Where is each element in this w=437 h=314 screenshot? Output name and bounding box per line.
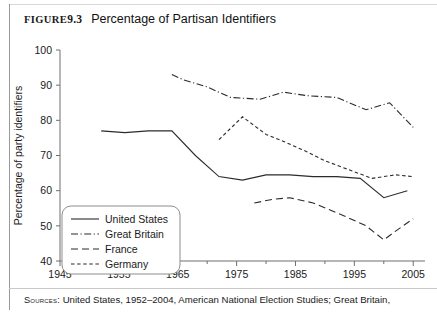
- figure-label: Figure: [24, 14, 67, 25]
- y-tick-label: 70: [40, 149, 52, 161]
- line-chart: 4050607080901001945195519651975198519952…: [0, 30, 437, 280]
- legend-label-france: France: [105, 243, 138, 255]
- top-divider: [9, 4, 437, 5]
- y-tick-label: 50: [40, 220, 52, 232]
- chart-area: 4050607080901001945195519651975198519952…: [0, 30, 437, 280]
- legend-label-great-britain: Great Britain: [105, 228, 164, 240]
- source-body: United States, 1952–2004, American Natio…: [63, 294, 390, 305]
- y-tick-label: 80: [40, 114, 52, 126]
- y-tick-label: 40: [40, 255, 52, 267]
- page-title: Figure9.3 Percentage of Partisan Identif…: [24, 9, 276, 27]
- legend-label-germany: Germany: [105, 258, 149, 270]
- series-line-great-britain: [172, 75, 413, 128]
- series-line-germany: [219, 117, 413, 179]
- legend-label-united-states: United States: [105, 213, 168, 225]
- x-tick-label: 1985: [284, 268, 308, 280]
- y-tick-label: 100: [34, 44, 52, 56]
- figure-number: 9.3: [67, 13, 82, 25]
- y-tick-label: 60: [40, 184, 52, 196]
- series-line-united-states: [101, 131, 407, 198]
- y-tick-label: 90: [40, 79, 52, 91]
- figure-page: Figure9.3 Percentage of Partisan Identif…: [0, 0, 437, 314]
- source-note: Sources: United States, 1952–2004, Ameri…: [24, 294, 434, 305]
- x-tick-label: 1995: [343, 268, 367, 280]
- figure-caption: Percentage of Partisan Identifiers: [91, 12, 276, 26]
- y-axis-title: Percentage of party identifiers: [12, 86, 24, 226]
- source-keyword: Sources:: [24, 295, 60, 305]
- series-line-france: [254, 198, 413, 240]
- x-tick-label: 1975: [225, 268, 249, 280]
- source-divider: [9, 288, 437, 289]
- x-tick-label: 2005: [402, 268, 426, 280]
